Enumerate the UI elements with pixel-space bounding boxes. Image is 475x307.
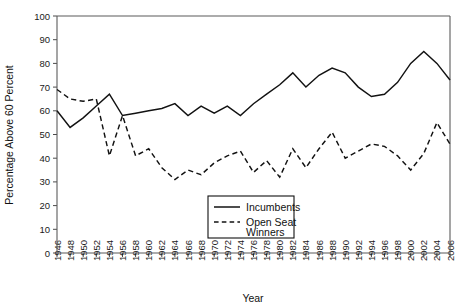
x-tick-label: 1998: [392, 240, 403, 261]
x-tick-label: 1968: [196, 240, 207, 261]
x-tick-label: 1974: [235, 240, 246, 261]
x-tick-label: 1950: [78, 240, 89, 261]
x-tick-label: 1970: [209, 240, 220, 261]
x-axis-title: Year: [242, 292, 264, 304]
y-tick-label: 40: [39, 153, 50, 164]
legend-label-open-seat-line2: Winners: [246, 226, 285, 238]
y-axis-title: Percentage Above 60 Percent: [3, 65, 15, 205]
y-tick-label: 30: [39, 176, 50, 187]
x-tick-label: 1956: [117, 240, 128, 261]
y-tick-label: 70: [39, 82, 50, 93]
x-tick-label: 1996: [379, 240, 390, 261]
x-tick-label: 2000: [405, 240, 416, 261]
y-tick-label: 20: [39, 200, 50, 211]
x-tick-label: 1962: [156, 240, 167, 261]
x-tick-label: 2002: [418, 240, 429, 261]
x-tick-label: 1988: [327, 240, 338, 261]
x-tick-label: 2004: [431, 240, 442, 261]
x-tick-label: 1966: [183, 240, 194, 261]
x-tick-label: 1982: [287, 240, 298, 261]
x-tick-label: 1984: [300, 240, 311, 261]
x-tick-label: 1986: [314, 240, 325, 261]
x-tick-label: 1964: [169, 240, 180, 261]
x-axis-ticks: 1946194819501952195419561958196019621964…: [52, 240, 456, 261]
x-tick-label: 1958: [130, 240, 141, 261]
x-tick-label: 1952: [91, 240, 102, 261]
y-tick-label: 10: [39, 224, 50, 235]
y-tick-label: 100: [34, 11, 50, 22]
x-tick-label: 1972: [222, 240, 233, 261]
chart-page: 0102030405060708090100 19461948195019521…: [0, 0, 475, 307]
x-tick-label: 1978: [261, 240, 272, 261]
line-chart: 0102030405060708090100 19461948195019521…: [0, 0, 475, 307]
y-tick-label: 50: [39, 129, 50, 140]
x-tick-label: 1954: [104, 240, 115, 261]
y-tick-label: 60: [39, 105, 50, 116]
chart-legend: Incumbents Open Seat Winners: [208, 196, 300, 238]
legend-label-incumbents: Incumbents: [246, 201, 300, 213]
x-tick-label: 1948: [65, 240, 76, 261]
x-tick-label: 1976: [248, 240, 259, 261]
x-tick-label: 1994: [366, 240, 377, 261]
y-tick-label: 0: [45, 248, 50, 259]
y-tick-label: 90: [39, 34, 50, 45]
x-tick-label: 1992: [353, 240, 364, 261]
y-tick-label: 80: [39, 58, 50, 69]
x-tick-label: 1960: [143, 240, 154, 261]
x-tick-label: 1990: [340, 240, 351, 261]
x-tick-label: 1980: [274, 240, 285, 261]
